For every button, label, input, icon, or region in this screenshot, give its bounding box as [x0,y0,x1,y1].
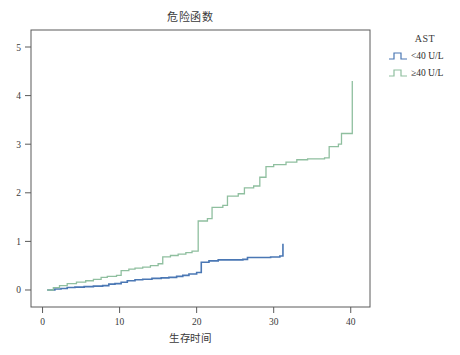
svg-text:1: 1 [16,237,21,247]
legend: AST <40 U/L ≥40 U/L [388,33,460,83]
series-line-below-40 [47,244,283,290]
legend-label-below-40: <40 U/L [411,51,444,61]
svg-text:20: 20 [192,317,202,327]
svg-text:5: 5 [16,43,21,53]
legend-label-above-40: ≥40 U/L [411,68,443,78]
svg-text:4: 4 [16,91,21,101]
svg-text:0: 0 [40,317,45,327]
legend-item-above-40[interactable]: ≥40 U/L [388,66,460,79]
legend-title: AST [396,33,454,44]
series-line-above-40 [47,81,352,290]
svg-text:2: 2 [16,188,21,198]
axis-ticks [25,47,351,313]
x-axis-label: 生存时间 [0,330,380,345]
chart-title: 危险函数 [0,8,380,24]
svg-text:30: 30 [269,317,279,327]
svg-text:0: 0 [16,285,21,295]
legend-swatch-step-icon [388,67,408,78]
svg-text:10: 10 [115,317,125,327]
svg-text:40: 40 [346,317,356,327]
legend-swatch-step-icon [388,50,408,61]
legend-item-below-40[interactable]: <40 U/L [388,49,460,62]
svg-text:3: 3 [16,140,21,150]
data-series [47,81,352,290]
hazard-function-chart: 危险函数 010203040012345 生存时间 AST <40 U/L ≥4… [0,0,460,355]
